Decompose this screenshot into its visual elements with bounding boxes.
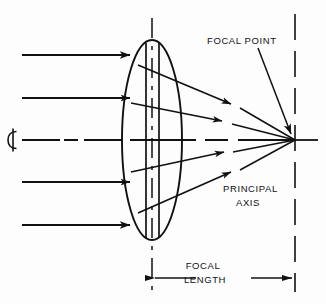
principal-axis-label-line2: AXIS (236, 197, 260, 208)
optics-diagram-canvas: FOCAL POINT PRINCIPAL AXIS FOCAL LENGTH (0, 0, 326, 304)
optics-diagram: FOCAL POINT PRINCIPAL AXIS FOCAL LENGTH (0, 0, 326, 304)
principal-axis-label-line1: PRINCIPAL (223, 183, 278, 194)
focal-point-label: FOCAL POINT (207, 35, 277, 46)
focal-length-label-line1: FOCAL (186, 260, 221, 271)
focal-length-label-line2: LENGTH (184, 274, 226, 285)
centerline-symbol-icon (8, 129, 17, 152)
